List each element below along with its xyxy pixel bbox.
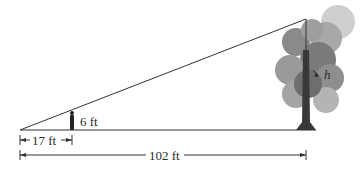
tree-icon	[275, 5, 355, 130]
similar-triangles-diagram: 6 ft h 17 ft 102 ft	[0, 0, 362, 172]
person-height-label: 6 ft	[80, 114, 98, 129]
tree-height-label: h	[324, 67, 331, 82]
person-distance-label: 17 ft	[32, 133, 57, 148]
sight-line	[20, 19, 306, 130]
person-icon	[70, 111, 74, 130]
tree-distance-label: 102 ft	[149, 148, 180, 163]
